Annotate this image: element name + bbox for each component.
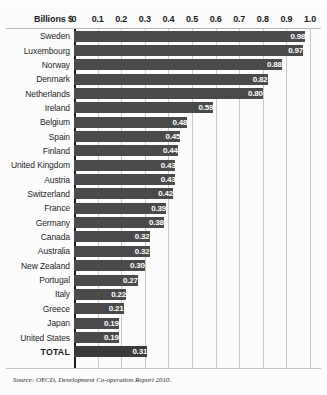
table-row: Ireland0.59: [0, 101, 327, 115]
chart-container: Billions $ 00.10.20.30.40.50.60.70.80.91…: [0, 0, 327, 395]
table-row: Austria0.43: [0, 173, 327, 187]
row-label: Switzerland: [0, 189, 70, 199]
bar-value-label: 0.30: [74, 260, 148, 271]
row-label: Denmark: [0, 74, 70, 84]
axis-tick-label: 0.4: [162, 14, 174, 24]
row-label: Luxembourg: [0, 46, 70, 56]
axis-tick-label: 0: [72, 14, 77, 24]
footer-divider: [6, 368, 321, 369]
table-row: Portugal0.27: [0, 273, 327, 287]
row-label: France: [0, 203, 70, 213]
row-label: United States: [0, 333, 70, 343]
axis-header: Billions $ 00.10.20.30.40.50.60.70.80.91…: [0, 14, 327, 27]
axis-tick-label: 1.0: [304, 14, 316, 24]
axis-tick-label: 0.8: [257, 14, 269, 24]
table-row: New Zealand0.30: [0, 259, 327, 273]
row-label: Norway: [0, 60, 70, 70]
table-row-total: TOTAL0.31: [0, 345, 327, 359]
bar-value-label: 0.48: [74, 117, 190, 128]
bar-value-label: 0.39: [74, 203, 169, 214]
table-row: Australia0.32: [0, 244, 327, 258]
table-row: Switzerland0.42: [0, 187, 327, 201]
table-row: Sweden0.98: [0, 29, 327, 43]
axis-tick-label: 0.6: [210, 14, 222, 24]
bar-value-label: 0.44: [74, 145, 181, 156]
bar-value-label: 0.82: [74, 74, 271, 85]
table-row: Norway0.88: [0, 58, 327, 72]
bar-value-label: 0.59: [74, 102, 216, 113]
bar-value-label: 0.80: [74, 88, 266, 99]
table-row: France0.39: [0, 201, 327, 215]
bar-value-label: 0.42: [74, 188, 176, 199]
row-label: United Kingdom: [0, 160, 70, 170]
row-label: Sweden: [0, 31, 70, 41]
row-label: Ireland: [0, 103, 70, 113]
table-row: Spain0.45: [0, 129, 327, 143]
scan-artifact-strip: [0, 0, 327, 8]
row-label: TOTAL: [0, 347, 70, 357]
bar-rows: Sweden0.98Luxembourg0.97Norway0.88Denmar…: [0, 29, 327, 368]
bar-value-label: 0.19: [74, 332, 122, 343]
bar-value-label: 0.43: [74, 174, 178, 185]
row-label: Spain: [0, 132, 70, 142]
bar-value-label: 0.22: [74, 289, 129, 300]
source-trailing: .: [169, 376, 171, 384]
bar-value-label: 0.32: [74, 246, 153, 257]
bar-value-label: 0.21: [74, 303, 127, 314]
row-label: Italy: [0, 289, 70, 299]
axis-tick-label: 0.3: [139, 14, 151, 24]
table-row: Canada0.32: [0, 230, 327, 244]
row-label: Portugal: [0, 275, 70, 285]
row-label: Germany: [0, 218, 70, 228]
row-label: New Zealand: [0, 261, 70, 271]
axis-tick-label: 0.7: [233, 14, 245, 24]
source-note: Source: OECD, Development Co-operation R…: [13, 376, 171, 384]
table-row: Japan0.19: [0, 316, 327, 330]
axis-tick-label: 0.5: [186, 14, 198, 24]
table-row: Denmark0.82: [0, 72, 327, 86]
bar-value-label: 0.88: [74, 59, 285, 70]
table-row: Belgium0.48: [0, 115, 327, 129]
bar-value-label: 0.97: [74, 45, 306, 56]
bar-value-label: 0.38: [74, 217, 167, 228]
bar-value-label: 0.43: [74, 160, 178, 171]
row-label: Greece: [0, 304, 70, 314]
bar-value-label: 0.31: [74, 346, 150, 357]
table-row: Luxembourg0.97: [0, 43, 327, 57]
row-label: Belgium: [0, 117, 70, 127]
row-label: Canada: [0, 232, 70, 242]
table-row: Italy0.22: [0, 287, 327, 301]
table-row: Greece0.21: [0, 302, 327, 316]
axis-tick-label: 0.9: [280, 14, 292, 24]
bar-value-label: 0.32: [74, 231, 153, 242]
row-label: Australia: [0, 246, 70, 256]
axis-tick-label: 0.1: [92, 14, 104, 24]
table-row: Germany0.38: [0, 216, 327, 230]
row-label: Austria: [0, 175, 70, 185]
bar-value-label: 0.19: [74, 318, 122, 329]
table-row: United States0.19: [0, 330, 327, 344]
bar-value-label: 0.27: [74, 275, 141, 286]
row-label: Finland: [0, 146, 70, 156]
table-row: Finland0.44: [0, 144, 327, 158]
bar-value-label: 0.98: [74, 31, 308, 42]
table-row: United Kingdom0.43: [0, 158, 327, 172]
axis-title: Billions $: [34, 14, 73, 24]
source-lead: Source:: [13, 376, 34, 384]
source-body: OECD, Development Co-operation Report 20…: [36, 376, 169, 384]
row-label: Netherlands: [0, 89, 70, 99]
table-row: Netherlands0.80: [0, 86, 327, 100]
row-label: Japan: [0, 318, 70, 328]
axis-tick-label: 0.2: [115, 14, 127, 24]
bar-value-label: 0.45: [74, 131, 183, 142]
